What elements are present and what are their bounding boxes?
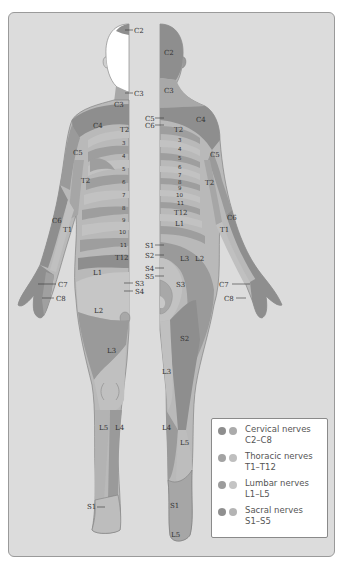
label-back-s2: S2 xyxy=(145,252,154,260)
label-back-l3-hip: L3 xyxy=(180,255,189,263)
label-back-l1: L1 xyxy=(175,220,184,228)
cervical-dark-swatch-icon xyxy=(218,427,226,435)
legend-item-thoracic: Thoracic nervesT1–T12 xyxy=(218,451,321,473)
label-front-t12: T12 xyxy=(115,254,129,262)
thoracic-light-swatch-icon xyxy=(229,454,237,462)
svg-text:10: 10 xyxy=(176,192,183,198)
label-back-t2: T2 xyxy=(174,126,183,134)
label-front-s4: S4 xyxy=(135,288,145,296)
svg-text:7: 7 xyxy=(178,172,182,178)
front-foot xyxy=(92,495,121,533)
label-front-t2: T2 xyxy=(120,126,129,134)
legend-title: Sacral nerves xyxy=(245,505,303,516)
label-back-c5-arm: C5 xyxy=(210,151,220,159)
label-back-c6: C6 xyxy=(227,214,237,222)
label-back-s5: S5 xyxy=(145,273,154,281)
label-back-l4: L4 xyxy=(162,424,172,432)
svg-text:5: 5 xyxy=(178,155,182,161)
label-front-l4: L4 xyxy=(115,424,125,432)
svg-text:4: 4 xyxy=(122,153,126,159)
label-back-t2-arm: T2 xyxy=(205,179,214,187)
legend-item-lumbar: Lumbar nervesL1–L5 xyxy=(218,478,321,500)
label-back-l5-foot: L5 xyxy=(171,531,180,539)
label-front-l2: L2 xyxy=(94,307,103,315)
label-back-t12: T12 xyxy=(174,209,188,217)
svg-text:3: 3 xyxy=(122,140,126,146)
legend: Cervical nervesC2–C8 Thoracic nervesT1–T… xyxy=(211,418,328,538)
label-front-l1: L1 xyxy=(93,269,102,277)
label-back-c6-arrow: C6 xyxy=(145,122,155,130)
label-front-c3-arrow: C3 xyxy=(134,90,144,98)
legend-item-sacral: Sacral nervesS1–S5 xyxy=(218,505,321,527)
svg-text:8: 8 xyxy=(122,205,126,211)
svg-text:11: 11 xyxy=(177,200,184,206)
label-front-t2-arm: T2 xyxy=(81,177,90,185)
label-back-s4: S4 xyxy=(145,265,155,273)
sacral-light-swatch-icon xyxy=(229,508,237,516)
label-front-c5: C5 xyxy=(73,149,83,157)
svg-text:7: 7 xyxy=(122,192,126,198)
label-front-l5: L5 xyxy=(99,424,108,432)
label-back-l5-calf: L5 xyxy=(180,439,189,447)
svg-text:10: 10 xyxy=(119,229,126,235)
legend-range: S1–S5 xyxy=(245,516,303,527)
label-back-l2: L2 xyxy=(195,255,204,263)
svg-text:11: 11 xyxy=(120,242,127,248)
label-front-c7: C7 xyxy=(58,281,68,289)
thoracic-dark-swatch-icon xyxy=(218,454,226,462)
label-back-c8: C8 xyxy=(224,295,234,303)
label-front-c2: C2 xyxy=(134,27,144,35)
legend-item-cervical: Cervical nervesC2–C8 xyxy=(218,424,321,446)
label-back-s1: S1 xyxy=(145,242,154,250)
label-front-s3: S3 xyxy=(135,280,144,288)
svg-text:4: 4 xyxy=(178,146,182,152)
cervical-light-swatch-icon xyxy=(229,427,237,435)
label-front-c3: C3 xyxy=(114,101,124,109)
label-front-c6: C6 xyxy=(52,217,62,225)
label-back-c7: C7 xyxy=(219,281,229,289)
label-front-c8: C8 xyxy=(56,295,66,303)
label-front-s1: S1 xyxy=(87,503,96,511)
svg-text:5: 5 xyxy=(122,166,126,172)
label-front-l3: L3 xyxy=(107,347,116,355)
svg-text:6: 6 xyxy=(178,164,182,170)
legend-range: T1–T12 xyxy=(245,462,313,473)
label-back-s1-foot: S1 xyxy=(170,502,179,510)
legend-title: Cervical nerves xyxy=(245,424,311,435)
label-back-l3-leg: L3 xyxy=(162,368,171,376)
back-hand xyxy=(250,275,282,318)
label-back-s3: S3 xyxy=(176,281,185,289)
label-back-c3: C3 xyxy=(164,87,174,95)
label-front-t1: T1 xyxy=(63,226,72,234)
lumbar-light-swatch-icon xyxy=(229,481,237,489)
lumbar-dark-swatch-icon xyxy=(218,481,226,489)
front-view: C2 C3 C3 C4 T2 C5 T2 3 4 5 6 7 8 9 10 11… xyxy=(18,24,145,533)
svg-text:9: 9 xyxy=(122,217,126,223)
sacral-dark-swatch-icon xyxy=(218,508,226,516)
label-back-t1: T1 xyxy=(220,226,229,234)
legend-title: Thoracic nerves xyxy=(245,451,313,462)
legend-range: C2–C8 xyxy=(245,435,311,446)
legend-range: L1–L5 xyxy=(245,489,309,500)
svg-text:3: 3 xyxy=(178,137,182,143)
label-back-c4: C4 xyxy=(196,116,206,124)
label-front-c4: C4 xyxy=(93,122,103,130)
svg-text:9: 9 xyxy=(178,185,182,191)
label-back-c2: C2 xyxy=(164,49,174,57)
svg-text:6: 6 xyxy=(122,179,126,185)
legend-title: Lumbar nerves xyxy=(245,478,309,489)
label-back-s2-thigh: S2 xyxy=(180,335,189,343)
